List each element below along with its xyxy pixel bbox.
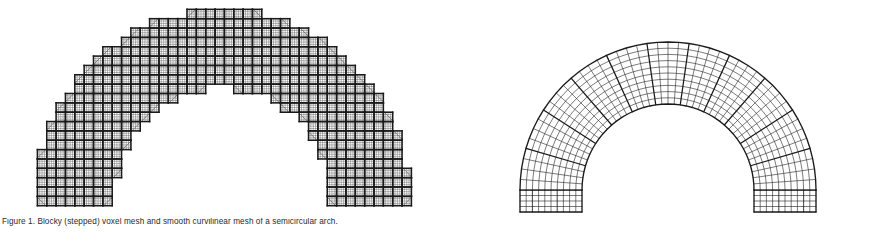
smooth-arch-mesh bbox=[520, 42, 816, 212]
smooth-arch-svg bbox=[445, 0, 891, 218]
figure-caption-strip: Figure 1. Blocky (stepped) voxel mesh an… bbox=[0, 218, 891, 233]
figure-caption: Figure 1. Blocky (stepped) voxel mesh an… bbox=[2, 218, 338, 227]
figure-container: Figure 1. Blocky (stepped) voxel mesh an… bbox=[0, 0, 891, 233]
figure-panel-blocky-arch bbox=[0, 0, 445, 218]
figure-panel-smooth-arch bbox=[445, 0, 891, 218]
blocky-arch-svg bbox=[0, 0, 445, 218]
blocky-arch-mesh bbox=[37, 9, 411, 205]
